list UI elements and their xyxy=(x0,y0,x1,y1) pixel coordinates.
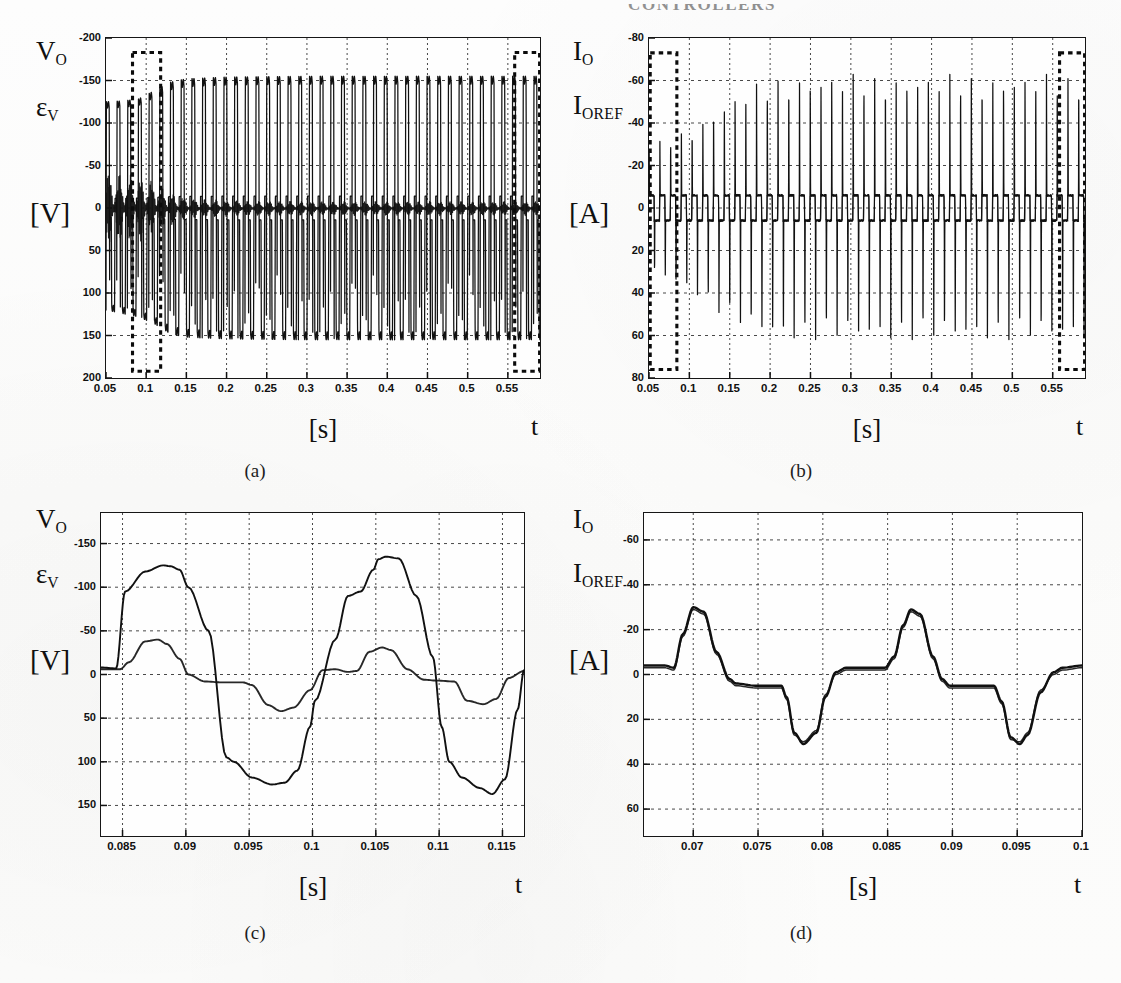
panel-a-ytick: -200 xyxy=(65,31,101,43)
panel-b-xtick: 0.2 xyxy=(761,382,777,394)
panel-a-ytick: 50 xyxy=(65,244,101,256)
panel-b-xtick: 0.25 xyxy=(798,382,820,394)
panel-b-xtick: 0.05 xyxy=(637,382,659,394)
panel-d-ytick: -40 xyxy=(603,578,639,590)
panel-b-ytick: -20 xyxy=(608,159,644,171)
panel-a: VO εV [V] [s] t (a) 200150100500-50-100-… xyxy=(0,14,560,484)
panel-a-label-vo: VO xyxy=(36,38,67,65)
panel-c-x-unit: [s] xyxy=(299,872,328,903)
panel-d-caption: (d) xyxy=(790,922,812,944)
panel-c-ytick: 150 xyxy=(60,798,96,810)
panel-c: VO εV [V] [s] t (c) 150100500-50-100-150… xyxy=(0,494,560,964)
panel-c-xtick: 0.11 xyxy=(427,840,449,852)
panel-d-xtick: 0.08 xyxy=(811,840,833,852)
panel-b-ytick: 60 xyxy=(608,329,644,341)
panel-c-xtick: 0.085 xyxy=(107,840,136,852)
panel-b-caption: (b) xyxy=(790,460,812,482)
panel-a-xtick: 0.35 xyxy=(335,382,357,394)
panel-a-ytick: 100 xyxy=(65,286,101,298)
panel-c-xtick: 0.1 xyxy=(304,840,320,852)
panel-d-xtick: 0.095 xyxy=(1002,840,1031,852)
panel-c-ytick: 100 xyxy=(60,755,96,767)
panel-b-xtick: 0.45 xyxy=(960,382,982,394)
panel-b-label-ioref: IOREF xyxy=(573,92,623,119)
panel-b-ytick: -60 xyxy=(608,74,644,86)
panel-a-ytick: 0 xyxy=(65,201,101,213)
panel-d-x-symbol: t xyxy=(1074,870,1081,900)
panel-a-ytick: -150 xyxy=(65,74,101,86)
panel-b-xtick: 0.1 xyxy=(680,382,696,394)
panel-a-xtick: 0.25 xyxy=(255,382,277,394)
panel-a-ytick: -50 xyxy=(65,159,101,171)
panel-c-ytick: -50 xyxy=(60,624,96,636)
panel-c-label-vo: VO xyxy=(36,506,67,533)
panel-d-plot-area xyxy=(643,512,1083,837)
panel-d-xtick: 0.075 xyxy=(743,840,772,852)
panel-c-x-symbol: t xyxy=(515,870,522,900)
panel-a-caption: (a) xyxy=(244,460,265,482)
panel-b-ytick: 20 xyxy=(608,244,644,256)
panel-c-label-epsilon-v: εV xyxy=(36,561,59,588)
panel-a-xtick: 0.3 xyxy=(298,382,314,394)
panel-b-xtick: 0.15 xyxy=(718,382,740,394)
panel-d-ytick: -20 xyxy=(603,623,639,635)
panel-d-label-io: IO xyxy=(573,506,594,533)
panel-a-xtick: 0.05 xyxy=(94,382,116,394)
panel-c-ytick: -150 xyxy=(60,537,96,549)
panel-d-xtick: 0.085 xyxy=(872,840,901,852)
panel-d-ytick: 60 xyxy=(603,802,639,814)
panel-a-xtick: 0.55 xyxy=(496,382,518,394)
panel-a-ytick: -100 xyxy=(65,116,101,128)
running-header-text: CONTROLLERS xyxy=(628,4,776,14)
panel-d-ytick: 40 xyxy=(603,757,639,769)
panel-c-xtick: 0.09 xyxy=(174,840,196,852)
panel-b: IO IOREF [A] [s] t (b) 806040200-20-40-6… xyxy=(543,14,1121,484)
panel-b-label-io: IO xyxy=(573,38,594,65)
panel-b-xtick: 0.5 xyxy=(1003,382,1019,394)
panel-b-xtick: 0.3 xyxy=(842,382,858,394)
panel-d-xtick: 0.07 xyxy=(681,840,703,852)
panel-c-plot-area xyxy=(100,512,525,837)
panel-a-x-symbol: t xyxy=(531,412,538,442)
panel-b-ytick: -40 xyxy=(608,116,644,128)
panel-b-xtick: 0.4 xyxy=(923,382,939,394)
panel-a-label-epsilon-v: εV xyxy=(36,94,59,121)
panel-b-ytick: 0 xyxy=(608,201,644,213)
panel-a-ytick: 150 xyxy=(65,329,101,341)
panel-d-xtick: 0.09 xyxy=(940,840,962,852)
panel-c-xtick: 0.115 xyxy=(487,840,515,852)
panel-a-xtick: 0.4 xyxy=(378,382,394,394)
panel-d-ytick: 20 xyxy=(603,712,639,724)
panel-d-ytick: -60 xyxy=(603,533,639,545)
panel-d: IO IOREF [A] [s] t (d) 6040200-20-40-600… xyxy=(543,494,1121,964)
panel-a-xtick: 0.2 xyxy=(218,382,234,394)
panel-a-x-unit: [s] xyxy=(309,414,338,445)
panel-b-ytick: 40 xyxy=(608,286,644,298)
panel-d-x-unit: [s] xyxy=(849,872,878,903)
panel-a-xtick: 0.1 xyxy=(137,382,153,394)
panel-c-caption: (c) xyxy=(244,922,265,944)
panel-b-x-symbol: t xyxy=(1076,412,1083,442)
panel-d-xtick: 0.1 xyxy=(1073,840,1089,852)
panel-a-xtick: 0.5 xyxy=(459,382,475,394)
panel-b-unit-label: [A] xyxy=(569,199,609,228)
panel-c-ytick: -100 xyxy=(60,580,96,592)
panel-b-xtick: 0.55 xyxy=(1041,382,1063,394)
panel-c-xtick: 0.095 xyxy=(234,840,263,852)
panel-c-ytick: 0 xyxy=(60,668,96,680)
panel-b-plot-area xyxy=(648,37,1086,379)
panel-a-xtick: 0.15 xyxy=(174,382,196,394)
panel-d-ytick: 0 xyxy=(603,668,639,680)
panel-c-xtick: 0.105 xyxy=(360,840,389,852)
panel-b-ytick: -80 xyxy=(608,31,644,43)
panel-b-xtick: 0.35 xyxy=(879,382,901,394)
panel-b-x-unit: [s] xyxy=(853,414,882,445)
panel-a-plot-area xyxy=(105,37,541,379)
panel-a-xtick: 0.45 xyxy=(415,382,437,394)
panel-c-ytick: 50 xyxy=(60,711,96,723)
